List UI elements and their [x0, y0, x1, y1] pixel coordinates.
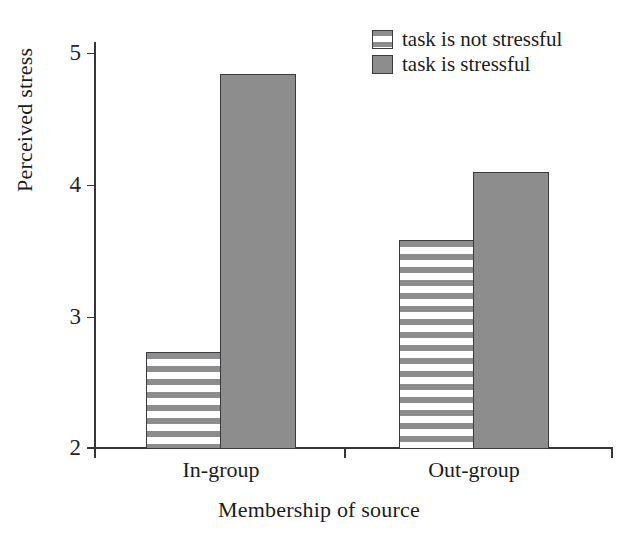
bar-in-group-stressful: [220, 74, 296, 449]
x-tick-label-out-group: Out-group: [384, 459, 564, 481]
legend-item-not-stressful: task is not stressful: [372, 27, 562, 52]
x-tick-right: [611, 447, 613, 458]
bar-in-group-not-stressful: [146, 352, 221, 449]
legend-swatch-striped-icon: [372, 30, 393, 49]
y-tick-label-3: 3: [70, 305, 82, 328]
x-axis-title: Membership of source: [0, 497, 638, 523]
y-axis-line: [94, 42, 96, 449]
x-tick-middle: [344, 447, 346, 458]
bar-chart-figure: 5 4 3 2 In-group Out-group Membership of…: [0, 0, 638, 535]
legend: task is not stressful task is stressful: [372, 27, 562, 77]
legend-label-stressful: task is stressful: [402, 54, 530, 75]
legend-label-not-stressful: task is not stressful: [402, 29, 562, 50]
legend-swatch-solid-icon: [372, 55, 393, 74]
legend-item-stressful: task is stressful: [372, 52, 562, 77]
y-tick-label-5: 5: [70, 41, 82, 64]
x-tick-left: [94, 447, 96, 458]
bar-out-group-not-stressful: [399, 240, 474, 449]
y-tick-5: 5: [87, 53, 96, 55]
y-axis-title: Perceived stress: [12, 0, 38, 192]
y-tick-label-4: 4: [70, 173, 82, 196]
y-tick-3: 3: [87, 317, 96, 319]
y-tick-label-2: 2: [70, 436, 82, 459]
y-tick-4: 4: [87, 185, 96, 187]
x-tick-label-in-group: In-group: [131, 459, 311, 481]
bar-out-group-stressful: [473, 172, 549, 449]
